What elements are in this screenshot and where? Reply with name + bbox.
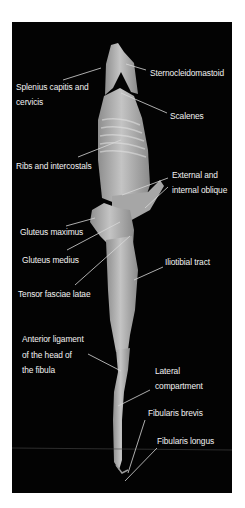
label-iliotibial: Iliotibial tract <box>165 255 210 270</box>
label-fibularis-brevis: Fibularis brevis <box>148 406 203 421</box>
label-fibularis-longus: Fibularis longus <box>157 434 214 449</box>
label-anterior-ligament: Anterior ligament of the head of the fib… <box>22 332 84 379</box>
label-gluteus-maximus: Gluteus maximus <box>20 225 83 240</box>
neck-muscles <box>105 43 138 95</box>
label-tensor: Tensor fasciae latae <box>18 287 91 302</box>
label-scalenes: Scalenes <box>170 109 204 124</box>
label-ribs: Ribs and intercostals <box>16 159 92 174</box>
label-lateral-compartment: Lateral compartment <box>155 364 203 393</box>
label-splenius: Splenius capitis and cervicis <box>16 80 89 109</box>
label-sternocleidomastoid: Sternocleidomastoid <box>150 66 224 81</box>
label-oblique: External and internal oblique <box>172 168 227 197</box>
label-gluteus-medius: Gluteus medius <box>22 253 79 268</box>
leg <box>113 348 130 470</box>
